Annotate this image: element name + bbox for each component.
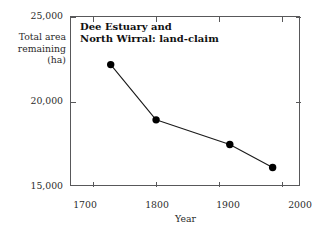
data-point-1917: [226, 141, 233, 148]
chart-figure: Total arearemaining(ha) 25,000 20,000 15…: [0, 0, 319, 239]
chart-title-line-2: North Wirral: land-claim: [80, 33, 219, 44]
x-tick-label-1700: 1700: [63, 200, 107, 210]
data-point-1728: [107, 61, 114, 68]
y-axis-label-line-3: (ha): [47, 54, 66, 65]
y-tick-label-15000: 15,000: [7, 181, 63, 191]
data-point-1800: [152, 116, 159, 123]
x-tick-label-1900: 1900: [206, 200, 250, 210]
data-point-markers: [107, 61, 276, 171]
y-axis-label: Total arearemaining(ha): [2, 31, 66, 66]
chart-title-line-1: Dee Estuary and: [80, 21, 172, 32]
x-axis-label: Year: [70, 213, 301, 224]
data-line-series-1: [111, 65, 273, 168]
y-tick-label-20000: 20,000: [7, 96, 63, 106]
chart-title: Dee Estuary andNorth Wirral: land-claim: [80, 21, 219, 45]
y-axis-label-line-1: Total area: [19, 31, 66, 42]
x-tick-label-2000: 2000: [278, 200, 319, 210]
x-tick-label-1800: 1800: [135, 200, 179, 210]
y-tick-label-25000: 25,000: [7, 11, 63, 21]
y-axis-label-line-2: remaining: [18, 43, 66, 54]
data-point-1985: [269, 164, 276, 171]
